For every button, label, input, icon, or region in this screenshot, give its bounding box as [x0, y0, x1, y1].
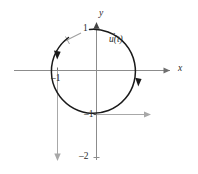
- vector-function-plot: x y 1 –1 –1 –2 → u (t): [0, 0, 198, 174]
- y-axis-label: y: [99, 9, 103, 19]
- vector-function-curve: [51, 29, 135, 113]
- guide-arrows-group: [54, 33, 151, 161]
- plot-canvas: [0, 0, 198, 174]
- tick-marks-group: [58, 29, 100, 158]
- guide-horizontal-arrowhead: [144, 112, 151, 118]
- tick-label-y-negative-one: –1: [84, 110, 94, 120]
- vector-arrow-accent-icon: →: [109, 29, 117, 37]
- tick-label-x-negative-one: –1: [51, 74, 61, 84]
- x-axis-arrowhead: [164, 68, 171, 74]
- x-axis-label: x: [178, 64, 182, 74]
- y-axis-arrowhead: [94, 22, 100, 29]
- axes-group: [14, 22, 170, 160]
- curve-label: → u (t): [109, 35, 123, 45]
- tick-label-y-one: 1: [83, 24, 88, 34]
- direction-arrowhead-right: [135, 78, 141, 87]
- guide-vertical-arrowhead: [54, 154, 60, 162]
- tick-label-y-negative-two: –2: [79, 152, 89, 162]
